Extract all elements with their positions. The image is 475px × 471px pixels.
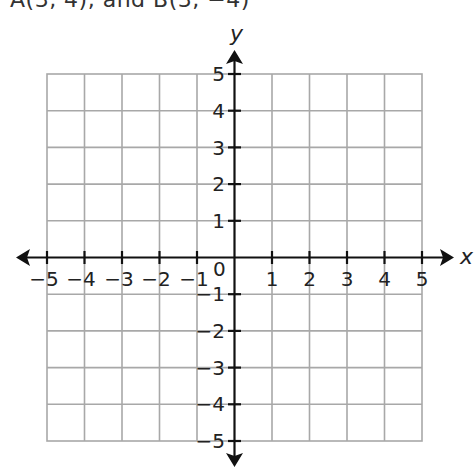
y-tick-label: 4 [212,99,225,123]
x-tick-label: 4 [378,267,391,291]
y-tick-label: 1 [212,209,225,233]
y-tick-label: −3 [196,356,225,380]
origin-label: 0 [213,257,226,281]
y-tick-label: 5 [212,62,225,86]
y-tick-label: −2 [196,319,225,343]
y-tick-label: −5 [196,429,225,453]
x-axis-label: x [459,244,474,269]
coordinate-plane: y x 0 −5 −4 −3 −2 −1 1 2 3 4 5 5 4 3 2 1… [0,0,475,471]
y-tick-label: −4 [196,392,225,416]
x-tick-label: 3 [341,267,354,291]
y-tick-label: 3 [212,136,225,160]
x-tick-label: −4 [66,267,95,291]
x-tick-label: 2 [303,267,316,291]
y-axis-label: y [229,21,244,46]
y-tick-label: −1 [196,282,225,306]
x-tick-label: −2 [141,267,170,291]
x-tick-label: 5 [416,267,429,291]
x-tick-label: −3 [104,267,133,291]
x-tick-labels: −5 −4 −3 −2 −1 1 2 3 4 5 [29,267,428,291]
x-tick-label: −5 [29,267,58,291]
x-tick-label: 1 [266,267,279,291]
y-tick-label: 2 [212,172,225,196]
